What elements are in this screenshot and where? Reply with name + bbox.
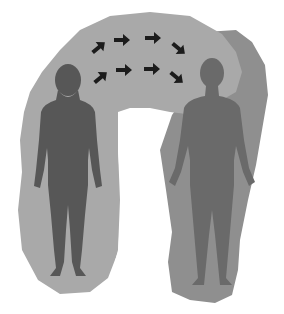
energy-transfer-illustration: [0, 0, 284, 314]
